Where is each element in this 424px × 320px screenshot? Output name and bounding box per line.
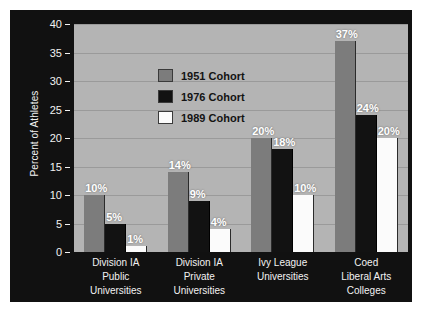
bar-value-label: 10% [294,182,316,195]
x-axis-label-3: Ivy LeagueUniversities [241,256,325,284]
x-axis-label-line: Universities [241,270,325,284]
bar-2-1 [168,172,189,252]
plot-area: 10%14%20%37%5%9%18%24%1%4%10%20% 1951 Co… [74,24,408,252]
y-axis-tick-5: 5 [56,218,70,230]
legend-item-1[interactable]: 1951 Cohort [158,66,245,85]
x-axis-label-line: Private [158,270,242,284]
gridline [74,24,408,25]
y-axis-tick-0: 0 [56,246,70,258]
legend-label: 1976 Cohort [181,91,245,103]
x-axis-label-line: Division IA [158,256,242,270]
x-axis-label-line: Coed [325,256,409,270]
y-axis-tick-labels: 0510152025303540 [40,24,70,252]
y-axis-tick-35: 35 [50,47,70,59]
bar-value-label: 20% [378,125,400,138]
x-axis-label-4: CoedLiberal ArtsColleges [325,256,409,298]
legend-swatch-icon [158,111,173,124]
bar-value-label: 10% [85,182,107,195]
legend-swatch-icon [158,69,173,82]
y-axis-tick-30: 30 [50,75,70,87]
x-axis-label-line: Liberal Arts [325,270,409,284]
x-axis-label-2: Division IAPrivateUniversities [158,256,242,298]
bar-1-2 [105,224,126,253]
bar-value-label: 20% [252,125,274,138]
legend-swatch-icon [158,90,173,103]
bar-value-label: 9% [190,188,206,201]
bar-3-2 [272,149,293,252]
x-axis-label-1: Division IAPublicUniversities [74,256,158,298]
legend-label: 1989 Cohort [181,112,245,124]
chart-frame: Percent of Athletes 0510152025303540 10%… [10,10,412,302]
bar-4-3 [377,138,398,252]
x-axis-label-line: Colleges [325,284,409,298]
bar-value-label: 24% [357,102,379,115]
bar-value-label: 5% [106,211,122,224]
bar-1-3 [126,246,147,252]
y-axis-tick-20: 20 [50,132,70,144]
bar-4-1 [335,41,356,252]
x-axis-label-line: Universities [74,284,158,298]
x-axis-label-line: Public [74,270,158,284]
bar-value-label: 1% [127,233,143,246]
bar-1-1 [84,195,105,252]
y-axis-title: Percent of Athletes [29,64,40,204]
bar-value-label: 4% [211,216,227,229]
legend-label: 1951 Cohort [181,70,245,82]
y-axis-tick-40: 40 [50,18,70,30]
y-axis-tick-15: 15 [50,161,70,173]
bar-2-3 [210,229,231,252]
legend-item-2[interactable]: 1976 Cohort [158,87,245,106]
bar-3-1 [251,138,272,252]
x-axis-label-line: Ivy League [241,256,325,270]
y-axis-tick-25: 25 [50,104,70,116]
legend-item-3[interactable]: 1989 Cohort [158,108,245,127]
chart-legend: 1951 Cohort1976 Cohort1989 Cohort [158,66,245,129]
bar-value-label: 14% [169,159,191,172]
gridline [74,53,408,54]
y-axis-tick-10: 10 [50,189,70,201]
bar-3-3 [293,195,314,252]
bar-4-2 [356,115,377,252]
x-axis-label-line: Universities [158,284,242,298]
x-axis-label-line: Division IA [74,256,158,270]
x-axis-category-labels: Division IAPublicUniversitiesDivision IA… [74,256,408,302]
bar-value-label: 18% [273,136,295,149]
bar-2-2 [189,201,210,252]
bar-value-label: 37% [336,28,358,41]
